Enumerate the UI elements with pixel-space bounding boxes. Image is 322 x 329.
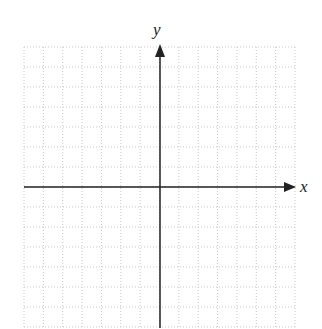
y-axis-arrow-icon — [155, 44, 165, 57]
coordinate-plane — [0, 0, 322, 329]
y-axis-label: y — [153, 21, 161, 38]
x-axis-arrow-icon — [284, 182, 296, 192]
x-axis-label: x — [300, 178, 308, 195]
